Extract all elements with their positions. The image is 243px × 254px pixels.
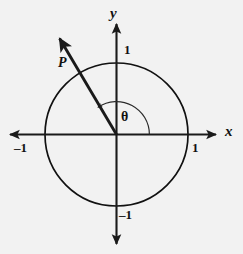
y-axis-label: y [110,6,117,21]
angle-theta-label: θ [121,110,128,124]
y-tick-positive-one: 1 [124,43,131,56]
point-p-label: P [58,56,67,70]
x-tick-negative-one: –1 [14,141,27,154]
terminal-ray [60,39,117,135]
y-tick-negative-one: –1 [119,208,132,221]
unit-circle-figure: x y 1 –1 1 –1 P θ [0,0,243,254]
x-tick-positive-one: 1 [192,141,199,154]
x-axis-label: x [225,124,233,139]
